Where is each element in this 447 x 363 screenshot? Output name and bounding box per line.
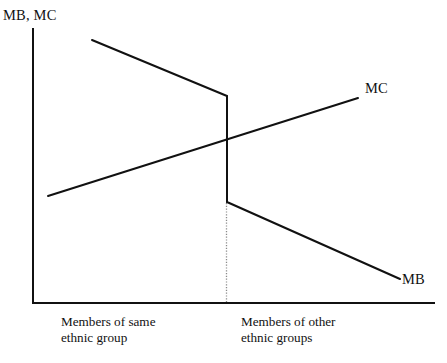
region-left-line-1: Members of same bbox=[61, 314, 155, 330]
mb-curve bbox=[92, 40, 400, 279]
series-label-mb: MB bbox=[402, 271, 425, 288]
region-left-line-2: ethnic group bbox=[61, 330, 155, 346]
x-axis-region-label-same-ethnic-group: Members of same ethnic group bbox=[61, 314, 155, 345]
economics-chart-figure: MB, MC MC MB Members of same ethnic grou… bbox=[0, 0, 447, 363]
chart-plot-area bbox=[0, 0, 447, 363]
region-right-line-2: ethnic groups bbox=[241, 330, 335, 346]
region-right-line-1: Members of other bbox=[241, 314, 335, 330]
y-axis-label: MB, MC bbox=[3, 7, 57, 24]
series-label-mc: MC bbox=[365, 80, 388, 97]
mc-curve bbox=[48, 98, 358, 196]
x-axis-region-label-other-ethnic-groups: Members of other ethnic groups bbox=[241, 314, 335, 345]
